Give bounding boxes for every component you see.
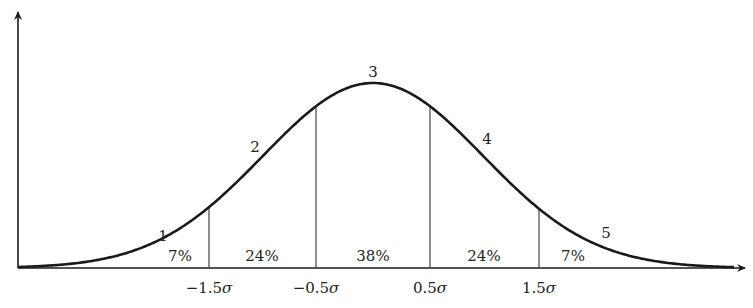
region-percentage: 38%: [356, 247, 389, 265]
sigma-tick-label: −1.5σ: [186, 279, 233, 297]
region-percentage: 24%: [245, 247, 278, 265]
region-percentage: 7%: [168, 247, 192, 265]
region-percentage: 24%: [467, 247, 500, 265]
curve-segment-label: 3: [368, 63, 378, 81]
bell-curve: [18, 83, 734, 267]
region-percentage: 7%: [561, 247, 585, 265]
sigma-tick-label: 1.5σ: [522, 279, 557, 297]
sigma-tick-labels: −1.5σ−0.5σ0.5σ1.5σ: [186, 279, 557, 297]
curve-segment-label: 2: [250, 138, 260, 156]
curve-segment-label: 4: [482, 130, 492, 148]
curve-segment-labels: 12345: [158, 63, 611, 245]
curve-segment-label: 1: [158, 227, 168, 245]
normal-distribution-diagram: 12345 7%24%38%24%7% −1.5σ−0.5σ0.5σ1.5σ: [0, 0, 753, 308]
curve-segment-label: 5: [601, 224, 611, 242]
region-percentage-labels: 7%24%38%24%7%: [168, 247, 585, 265]
sigma-tick-label: −0.5σ: [293, 279, 340, 297]
sigma-tick-label: 0.5σ: [413, 279, 448, 297]
